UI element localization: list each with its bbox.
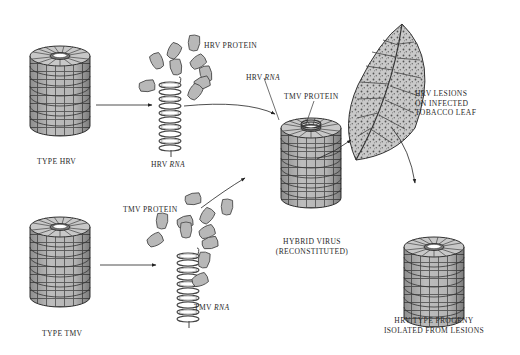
hrv-protein-subunits [138,35,214,102]
arrow-rna-to-hybrid [184,104,275,114]
diagram-canvas: TYPE HRV HRV PROTEIN HRV RNA TYPE TMV TM… [0,0,520,355]
label-infected-leaf: HRV LESIONS ON INFECTED TOBACCO LEAF [415,89,476,118]
label-tmv-protein: TMV PROTEIN [123,205,178,215]
tmv-rna-coil [177,248,199,328]
label-tmv-rna-prefix: TMV [194,303,212,312]
label-hrv-rna-prefix: HRV [151,160,167,169]
tobacco-leaf [348,24,424,160]
label-tmv-rna-italic: RNA [214,303,229,312]
label-hybrid-virus-line2: (RECONSTITUTED) [250,247,374,257]
label-hrv-rna: HRV RNA [151,160,185,170]
type-hrv-virus [30,46,90,136]
label-infected-leaf-line1: HRV LESIONS [415,89,476,99]
label-type-hrv: TYPE HRV [37,157,76,167]
label-type-tmv: TYPE TMV [42,329,82,339]
label-progeny: HRV TYPE PROGENY ISOLATED FROM LESIONS [370,316,498,335]
label-hrv-rna-italic: RNA [170,160,185,169]
callout-hrv-rna: HRV RNA [246,73,280,83]
label-hrv-protein: HRV PROTEIN [204,41,257,51]
hybrid-virus-graphic [281,118,341,208]
diagram-graphics [0,0,520,355]
label-infected-leaf-line3: TOBACCO LEAF [415,108,476,118]
label-hybrid-virus: HYBRID VIRUS (RECONSTITUTED) [250,237,374,256]
hrv-rna-coil [159,77,181,157]
callout-tmv-protein: TMV PROTEIN [284,92,339,102]
label-progeny-line1: HRV TYPE PROGENY [370,316,498,326]
progeny-virus-graphic [404,237,464,327]
label-hybrid-virus-line1: HYBRID VIRUS [250,237,374,247]
label-progeny-line2: ISOLATED FROM LESIONS [370,326,498,336]
callout-hrv-rna-italic: RNA [265,73,280,82]
label-tmv-rna: TMV RNA [194,303,229,313]
type-tmv-virus [30,217,90,307]
label-infected-leaf-line2: ON INFECTED [415,99,476,109]
callout-hrv-rna-prefix: HRV [246,73,262,82]
